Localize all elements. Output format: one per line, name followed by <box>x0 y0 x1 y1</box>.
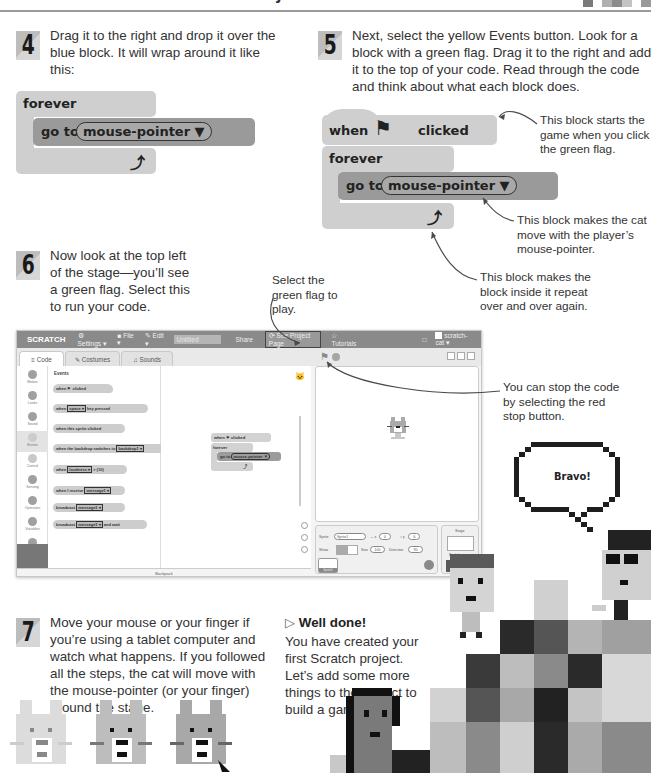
category-looks[interactable]: Looks <box>17 389 48 410</box>
arrow-starts-game <box>499 112 537 124</box>
forever-block-bottom: ⤴ <box>211 462 253 471</box>
arrow-moves-cat <box>483 198 514 221</box>
stage-header: ⚑ <box>311 348 482 366</box>
annotation-stop-button: You can stop the code by selecting the r… <box>503 380 623 424</box>
code-workspace[interactable]: 🐱 when ⚑ clicked forever go to mouse-poi… <box>161 366 311 568</box>
arrow-repeat <box>432 232 477 280</box>
add-extension-button[interactable] <box>17 544 48 568</box>
when-flag-clicked-block[interactable]: when ⚑ clicked <box>211 433 271 442</box>
account-menu[interactable]: scratch-cat ▾ <box>435 332 474 348</box>
step-number-5: 5 <box>318 31 342 60</box>
mouse-pointer-dropdown: mouse-pointer ▼ <box>76 122 212 141</box>
cat-sequence-illustration <box>10 700 235 773</box>
green-flag-button[interactable]: ⚑ <box>320 351 329 362</box>
forever-block-bottom: ⤴ <box>322 203 454 229</box>
triangle-right-icon: ▷ <box>285 615 295 630</box>
palette-block[interactable]: broadcast message1 ▾ <box>53 503 125 512</box>
cat-sprite[interactable] <box>389 417 407 441</box>
category-operators[interactable]: Operators <box>17 494 48 515</box>
palette-block[interactable]: when ⚑ clicked <box>53 384 113 393</box>
go-to-label: go to <box>346 178 384 193</box>
zoom-in-button[interactable] <box>301 522 308 529</box>
header-divider <box>0 10 651 12</box>
category-menu: Motion Looks Sound Events Control Sensin… <box>17 366 48 568</box>
page-header-title: GAME PROJECT <box>175 0 435 5</box>
step-number-4: 4 <box>16 31 40 60</box>
share-button[interactable]: Share <box>235 336 252 343</box>
forever-block[interactable]: forever <box>211 443 253 452</box>
palette-block[interactable]: when space ▾ key pressed <box>53 404 148 413</box>
palette-block[interactable]: when I receive message1 ▾ <box>53 486 125 495</box>
green-flag-icon: ⚑ <box>374 116 392 140</box>
header-mosaic-decoration <box>583 0 651 7</box>
stop-button[interactable] <box>332 353 340 361</box>
category-sensing[interactable]: Sensing <box>17 473 48 494</box>
forever-block-bottom: ⤴ <box>16 148 156 174</box>
annotation-starts-game: This block starts the game when you clic… <box>540 113 650 157</box>
fullscreen-button[interactable] <box>467 352 475 360</box>
pixel-man-glasses <box>592 530 651 620</box>
step-5-text: Next, select the yellow Events button. L… <box>352 27 651 95</box>
zoom-reset-button[interactable] <box>301 546 308 553</box>
pixel-girl <box>330 688 430 773</box>
category-variables[interactable]: Variables <box>17 515 48 536</box>
go-to-block: go to mouse-pointer ▼ <box>338 172 558 200</box>
palette-block[interactable]: when this sprite clicked <box>53 424 125 433</box>
sprite-label: Sprite <box>319 535 328 539</box>
clicked-label: clicked <box>418 123 469 138</box>
menu-file[interactable]: ■ File ▾ <box>117 332 135 347</box>
category-events[interactable]: Events <box>17 431 48 452</box>
palette-block[interactable]: when loudness ▾ > (10) <box>53 465 127 474</box>
category-control[interactable]: Control <box>17 452 48 473</box>
cat-full-3 <box>170 700 232 772</box>
go-to-label: go to <box>41 124 79 139</box>
backpack-bar[interactable]: Backpack <box>17 568 311 577</box>
loop-arrow-icon: ⤴ <box>427 206 442 227</box>
forever-label: forever <box>329 151 383 166</box>
tab-sounds[interactable]: ♫ Sounds <box>121 351 173 367</box>
cat-faded-1 <box>10 700 72 764</box>
tutorials-button[interactable]: ☆ Tutorials <box>331 332 358 347</box>
workspace-scrollbar[interactable] <box>299 416 301 506</box>
avatar <box>435 332 442 339</box>
annotation-moves-cat: This block makes the cat move with the p… <box>517 213 647 257</box>
when-label: when <box>329 123 368 138</box>
go-to-block[interactable]: go to mouse-pointer ▼ <box>217 452 281 461</box>
pixel-characters-illustration <box>330 470 651 773</box>
tab-code[interactable]: ≡ Code <box>19 351 64 367</box>
pixel-boy <box>446 554 494 638</box>
block-palette: Events when ⚑ clicked when space ▾ key p… <box>48 366 161 568</box>
menu-bar: SCRATCH ⚙ Settings ▾ ■ File ▾ ✎ Edit ▾ U… <box>17 331 482 348</box>
step-number-6: 6 <box>16 251 40 280</box>
annotation-green-flag: Select the green flag to play. <box>272 273 357 317</box>
forever-block-top: forever <box>322 146 454 172</box>
small-stage-button[interactable] <box>447 352 455 360</box>
annotation-repeat: This block makes the block inside it rep… <box>480 270 610 314</box>
loop-arrow-icon: ⤴ <box>130 151 145 172</box>
category-motion[interactable]: Motion <box>17 368 48 389</box>
step-6-text: Now look at the top left of the stage—yo… <box>50 247 190 315</box>
scratch-logo[interactable]: SCRATCH <box>27 335 66 344</box>
folder-icon[interactable]: □ <box>422 336 426 343</box>
forever-block-top: forever <box>16 91 156 117</box>
zoom-out-button[interactable] <box>301 534 308 541</box>
project-title-input[interactable]: Untitled <box>174 335 221 344</box>
category-sound[interactable]: Sound <box>17 410 48 431</box>
palette-block[interactable]: broadcast message1 ▾ and wait <box>53 520 147 529</box>
sprite-icon: 🐱 <box>295 372 305 386</box>
go-to-block: go to mouse-pointer ▼ <box>33 118 255 146</box>
mouse-pointer-dropdown: mouse-pointer ▼ <box>381 176 517 195</box>
see-project-page-button[interactable]: ⟳ See Project Page <box>265 331 322 348</box>
cat-mid-2 <box>90 700 152 764</box>
forever-label: forever <box>23 96 77 111</box>
large-stage-button[interactable] <box>457 352 465 360</box>
palette-heading: Events <box>54 371 69 376</box>
menu-settings[interactable]: ⚙ Settings ▾ <box>78 332 109 348</box>
tab-costumes[interactable]: ✎ Costumes <box>65 351 120 367</box>
step-number-7: 7 <box>16 618 40 647</box>
when-flag-clicked-block: when ⚑ clicked <box>322 115 497 145</box>
show-label: Show <box>319 548 328 552</box>
step-4-text: Drag it to the right and drop it over th… <box>50 27 280 78</box>
palette-block[interactable]: when the backdrop switches to backdrop1 … <box>53 444 177 453</box>
menu-edit[interactable]: ✎ Edit ▾ <box>145 332 166 348</box>
